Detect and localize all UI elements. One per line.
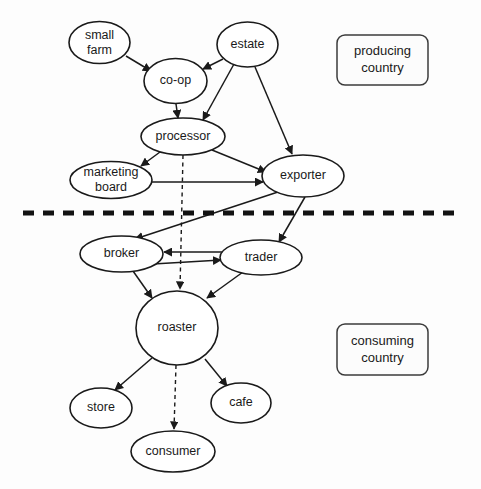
node-roaster[interactable]: roaster [136,291,218,365]
consuming-country-label-line2: country [361,350,404,365]
edge-processor-to-marketing-board [141,152,160,166]
edge-trader-to-roaster [207,272,243,298]
region-producing-country[interactable]: producing country [337,35,428,85]
region-layer: producing country consuming country [337,35,428,375]
node-layer: small farm co-op estate processor market… [69,22,344,473]
roaster-label-line1: roaster [158,320,197,334]
consumer-label-line1: consumer [146,444,201,458]
node-small-farm[interactable]: small farm [69,22,130,64]
node-marketing-board[interactable]: marketing board [70,162,152,199]
node-broker[interactable]: broker [80,236,163,272]
region-consuming-country[interactable]: consuming country [337,324,428,375]
edge-estate-to-exporter [255,67,292,154]
supply-chain-diagram: small farm co-op estate processor market… [0,0,481,489]
node-store[interactable]: store [70,388,132,428]
broker-label-line1: broker [104,246,139,260]
node-cafe[interactable]: cafe [211,383,271,423]
small-farm-label-line1: small [85,28,114,42]
edge-small-farm-to-co-op [126,56,151,71]
edge-roaster-to-cafe [205,359,227,386]
node-co-op[interactable]: co-op [144,59,207,104]
node-processor[interactable]: processor [141,118,225,155]
diagram-canvas: small farm co-op estate processor market… [0,0,481,489]
exporter-label-line1: exporter [280,168,326,182]
node-exporter[interactable]: exporter [262,155,344,197]
processor-label-line1: processor [156,129,211,143]
edge-broker-to-roaster [133,271,152,298]
node-estate[interactable]: estate [217,22,278,67]
producing-country-label-line2: country [361,60,404,75]
consuming-country-label-line1: consuming [351,333,414,348]
edge-processor-to-exporter [212,150,266,172]
co-op-label-line1: co-op [160,73,191,87]
small-farm-label-line2: farm [87,43,112,57]
cafe-label-line1: cafe [229,395,253,409]
marketing-board-label-line2: board [95,180,127,194]
trader-label-line1: trader [245,250,278,264]
edge-roaster-to-store [115,358,152,390]
edge-roaster-to-consumer-dashed [174,365,176,429]
node-consumer[interactable]: consumer [131,431,215,472]
edge-processor-to-roaster-dashed [180,155,183,289]
node-trader[interactable]: trader [220,240,302,275]
edge-estate-to-co-op [203,59,223,69]
store-label-line1: store [87,400,115,414]
producing-country-label-line1: producing [354,43,411,58]
edge-co-op-to-processor [176,104,178,118]
edge-broker-to-trader [153,260,221,264]
edge-exporter-to-trader [279,197,305,242]
marketing-board-label-line1: marketing [84,165,139,179]
estate-label-line1: estate [230,37,264,51]
edge-estate-to-processor [203,64,234,120]
